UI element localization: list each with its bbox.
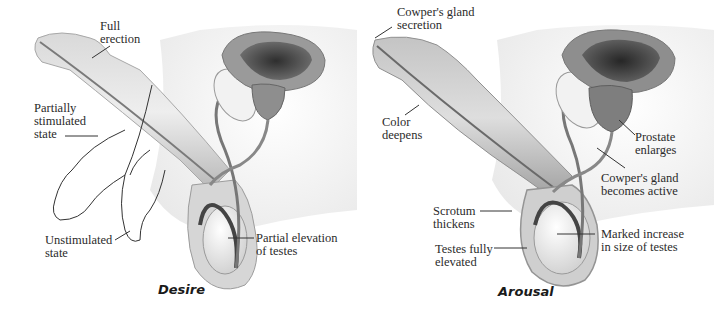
panel-arousal: Cowper's gland secretion Color deepens P… — [357, 0, 714, 316]
label-scrotum-thickens: Scrotum thickens — [433, 205, 475, 231]
leader-color-deepens — [405, 105, 419, 115]
panel-desire: Full erection Partially stimulated state… — [0, 0, 357, 316]
label-marked-increase: Marked increase in size of testes — [601, 228, 684, 254]
leader-cowpers-secretion — [375, 27, 392, 38]
label-full-erection: Full erection — [100, 20, 140, 46]
caption-desire: Desire — [158, 282, 205, 297]
desire-illustration — [0, 0, 357, 316]
label-cowpers-active: Cowper's gland becomes active — [601, 172, 679, 198]
label-partial-elevation: Partial elevation of testes — [256, 232, 338, 258]
label-partially-stimulated: Partially stimulated state — [34, 102, 86, 141]
arousal-illustration — [357, 0, 714, 316]
outline-unstimulated — [53, 130, 125, 220]
label-prostate-enlarges: Prostate enlarges — [635, 131, 676, 157]
label-testes-elevated: Testes fully elevated — [435, 243, 493, 269]
caption-arousal: Arousal — [498, 284, 554, 299]
label-cowpers-secretion: Cowper's gland secretion — [397, 6, 475, 32]
label-color-deepens: Color deepens — [382, 116, 422, 142]
label-unstimulated: Unstimulated state — [45, 234, 112, 260]
